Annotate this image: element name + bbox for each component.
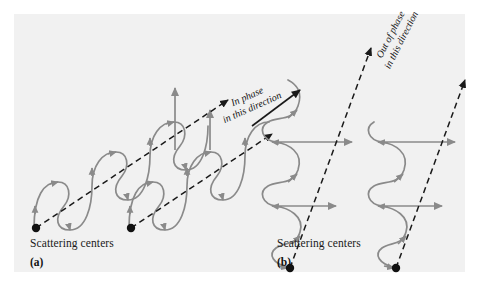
panel-b-wave-2-arrowheads (378, 142, 406, 268)
panel-a-letter: (a) (30, 256, 43, 268)
panel-a-dashed-ray-2 (131, 134, 272, 228)
panel-a-scattering-center-1 (32, 224, 40, 232)
panel-a-vertical-arrows (175, 88, 210, 150)
panel-b-caption: Scattering centers (277, 237, 361, 249)
panel-b-wave-train-2 (368, 122, 406, 268)
panel-a-scattering-center-2 (127, 224, 135, 232)
panel-b-dashed-ray-2 (396, 80, 465, 268)
panel-b-dashed-rays (290, 48, 465, 268)
panel-b-dashed-ray-1 (290, 48, 371, 268)
panel-b-letter: (b) (277, 256, 291, 268)
panel-b-wave-1-horizontal-arrows (276, 142, 352, 206)
panel-b-wave-2-horizontal-arrows (382, 142, 455, 206)
figure-root: In phase in this direction Out of phase … (0, 0, 478, 284)
panel-a-dashed-ray-1 (36, 100, 228, 228)
panel-b-scattering-center-2 (392, 264, 400, 272)
panel-a-caption: Scattering centers (30, 237, 114, 249)
